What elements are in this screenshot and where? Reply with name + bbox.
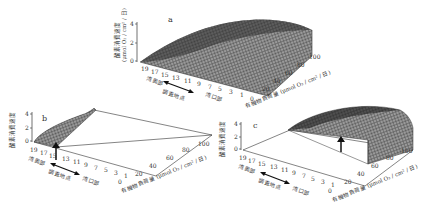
- z-axis-label: 酸素消費速度: [218, 121, 226, 157]
- panel-letter-a: a: [168, 15, 173, 24]
- svg-text:5: 5: [311, 175, 315, 182]
- svg-text:80: 80: [297, 61, 305, 68]
- svg-text:19: 19: [239, 154, 247, 161]
- svg-text:5: 5: [218, 85, 222, 92]
- svg-text:7: 7: [208, 83, 212, 90]
- station-mouth-label: 湾口部: [291, 184, 311, 197]
- svg-text:13: 13: [270, 163, 278, 170]
- station-inner-label: 湾奥部: [27, 154, 47, 167]
- svg-text:13: 13: [62, 155, 70, 162]
- svg-text:13: 13: [172, 74, 180, 81]
- panel-c: 4 2 0 酸素消費速度 c 19 17 15 13 11 9 7 5 3 1 …: [218, 106, 419, 203]
- z-tick: 4: [130, 20, 134, 27]
- svg-text:9: 9: [197, 80, 201, 87]
- z-tick: 2: [130, 39, 134, 46]
- svg-text:15: 15: [161, 71, 169, 78]
- svg-text:80: 80: [182, 146, 190, 153]
- svg-text:7: 7: [302, 172, 306, 179]
- station-axis-label: 調査地点: [257, 176, 282, 191]
- svg-text:11: 11: [184, 77, 192, 84]
- panel-a: 4 2 0 酸素消費速度 (μmol O₂ / cm² / 日) a 19 17…: [113, 8, 332, 110]
- z-tick: 0: [130, 57, 134, 64]
- station-axis-label: 調査地点: [47, 167, 72, 182]
- svg-text:20: 20: [262, 85, 270, 92]
- station-mouth-label: 湾口部: [204, 90, 224, 103]
- svg-text:0: 0: [118, 178, 122, 185]
- svg-text:60: 60: [371, 162, 379, 169]
- svg-text:20: 20: [135, 170, 143, 177]
- svg-text:4: 4: [234, 120, 238, 127]
- svg-text:0: 0: [25, 137, 29, 144]
- svg-text:40: 40: [273, 77, 281, 84]
- svg-text:3: 3: [114, 169, 118, 176]
- svg-text:100: 100: [198, 140, 210, 147]
- svg-text:40: 40: [357, 170, 365, 177]
- figure: 4 2 0 酸素消費速度 (μmol O₂ / cm² / 日) a 19 17…: [0, 0, 439, 211]
- svg-text:17: 17: [248, 157, 256, 164]
- z-axis-unit: (μmol O₂ / cm² / 日): [121, 8, 128, 62]
- svg-text:2: 2: [25, 124, 29, 131]
- svg-text:5: 5: [104, 166, 108, 173]
- svg-text:0: 0: [328, 187, 332, 194]
- svg-text:11: 11: [281, 166, 289, 173]
- station-inner-label: 湾奥部: [237, 162, 257, 175]
- svg-text:19: 19: [141, 65, 149, 72]
- station-mouth-label: 湾口部: [81, 174, 101, 187]
- svg-text:19: 19: [30, 146, 38, 153]
- svg-text:3: 3: [229, 88, 233, 95]
- svg-text:9: 9: [292, 169, 296, 176]
- svg-text:100: 100: [309, 53, 321, 60]
- z-axis-label: 酸素消費速度: [113, 22, 121, 58]
- svg-text:7: 7: [94, 164, 98, 171]
- svg-text:17: 17: [151, 68, 159, 75]
- svg-text:1: 1: [240, 91, 244, 98]
- svg-text:1: 1: [124, 172, 128, 179]
- svg-text:11: 11: [73, 158, 81, 165]
- svg-text:4: 4: [25, 110, 29, 117]
- svg-text:15: 15: [258, 160, 266, 167]
- panel-letter-b: b: [42, 114, 47, 123]
- svg-text:0: 0: [234, 145, 238, 152]
- panel-b: 4 2 0 酸素消費速度 b 19 17 15 13 11 9 7 5 3 1 …: [8, 108, 212, 195]
- svg-text:2: 2: [234, 133, 238, 140]
- svg-text:17: 17: [40, 149, 48, 156]
- svg-text:3: 3: [321, 178, 325, 185]
- svg-text:20: 20: [344, 178, 352, 185]
- z-axis-label: 酸素消費速度: [8, 112, 16, 148]
- svg-text:60: 60: [166, 154, 174, 161]
- svg-text:80: 80: [386, 154, 394, 161]
- svg-text:15: 15: [49, 152, 57, 159]
- svg-text:9: 9: [84, 161, 88, 168]
- svg-text:60: 60: [285, 69, 293, 76]
- panel-letter-c: c: [253, 121, 258, 130]
- station-axis-label: 調査地点: [161, 87, 186, 102]
- svg-text:40: 40: [149, 162, 157, 169]
- svg-text:100: 100: [401, 147, 413, 154]
